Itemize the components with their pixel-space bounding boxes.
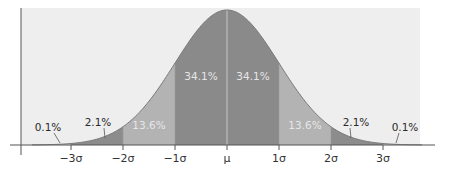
region-label: 2.1% (85, 116, 112, 128)
x-tick-label: 3σ (376, 152, 390, 165)
region-label: 0.1% (35, 121, 62, 133)
x-tick-label: 1σ (272, 152, 286, 165)
x-tick-label: −1σ (163, 152, 186, 165)
region-label: 2.1% (343, 116, 370, 128)
region-label: 13.6% (132, 119, 165, 131)
x-axis-ticks: −3σ−2σ−1σμ1σ2σ3σ (59, 145, 390, 165)
region-label: 34.1% (184, 70, 217, 82)
region-label: 34.1% (236, 70, 269, 82)
region-label: 0.1% (392, 121, 419, 133)
region-label: 13.6% (288, 119, 321, 131)
x-tick-label: −2σ (111, 152, 134, 165)
x-tick-label: μ (224, 152, 231, 165)
x-tick-label: 2σ (324, 152, 338, 165)
x-tick-label: −3σ (59, 152, 82, 165)
normal-distribution-chart: −3σ−2σ−1σμ1σ2σ3σ 0.1%2.1%13.6%34.1%34.1%… (0, 0, 450, 170)
